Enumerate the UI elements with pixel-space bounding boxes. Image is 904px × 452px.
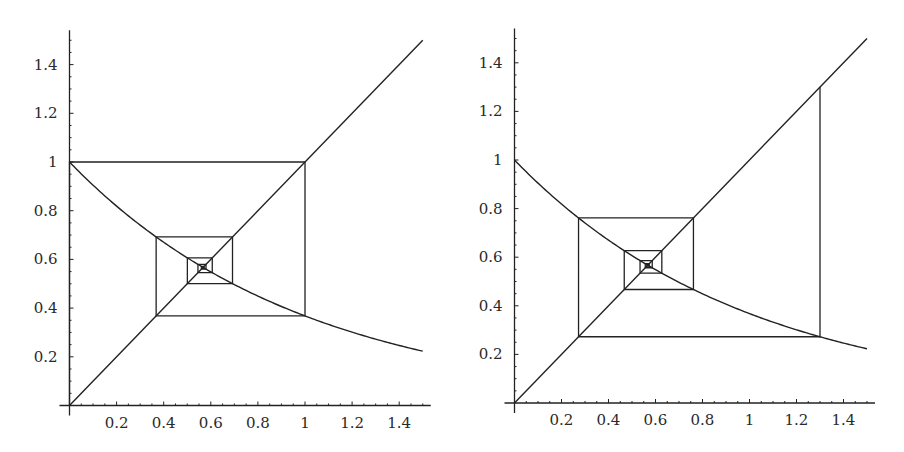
y-tick-label: 0.2 — [34, 348, 58, 366]
x-tick-label: 0.2 — [550, 411, 574, 429]
x-tick-label: 1.2 — [785, 411, 809, 429]
x-tick-label: 1.2 — [340, 414, 364, 432]
x-tick-label: 0.6 — [644, 411, 668, 429]
x-tick-label: 0.2 — [105, 414, 129, 432]
x-tick-label: 0.4 — [597, 411, 621, 429]
y-tick-label: 1 — [48, 153, 58, 171]
y-tick-label: 0.4 — [34, 299, 58, 317]
x-tick-label: 0.6 — [199, 414, 223, 432]
x-tick-label: 1 — [745, 411, 755, 429]
x-tick-label: 1.4 — [387, 414, 411, 432]
axes: 0.20.40.60.811.21.40.20.40.60.811.21.4 — [479, 29, 875, 430]
y-tick-label: 0.8 — [479, 200, 503, 218]
y-tick-label: 0.4 — [479, 297, 503, 315]
chart-right-svg: 0.20.40.60.811.21.40.20.40.60.811.21.4 — [450, 0, 902, 452]
chart-left: 0.20.40.60.811.21.40.20.40.60.811.21.4 — [0, 0, 452, 452]
y-tick-label: 0.2 — [479, 345, 503, 363]
exp-decay-curve — [70, 162, 423, 351]
y-tick-label: 1.2 — [34, 104, 58, 122]
y-tick-label: 0.8 — [34, 202, 58, 220]
x-tick-label: 1 — [300, 414, 310, 432]
x-tick-label: 1.4 — [832, 411, 856, 429]
exp-decay-curve — [515, 160, 868, 349]
y-tick-label: 1 — [493, 151, 503, 169]
y-tick-label: 0.6 — [34, 250, 58, 268]
chart-right: 0.20.40.60.811.21.40.20.40.60.811.21.4 — [450, 0, 902, 452]
y-tick-label: 0.6 — [479, 248, 503, 266]
x-tick-label: 0.4 — [152, 414, 176, 432]
x-tick-label: 0.8 — [246, 414, 270, 432]
identity-line — [70, 40, 423, 405]
x-tick-label: 0.8 — [691, 411, 715, 429]
identity-line — [515, 39, 868, 404]
chart-left-svg: 0.20.40.60.811.21.40.20.40.60.811.21.4 — [0, 0, 452, 452]
y-tick-label: 1.4 — [479, 54, 503, 72]
y-tick-label: 1.4 — [34, 56, 58, 74]
y-tick-label: 1.2 — [479, 102, 503, 120]
axes: 0.20.40.60.811.21.40.20.40.60.811.21.4 — [34, 30, 431, 431]
